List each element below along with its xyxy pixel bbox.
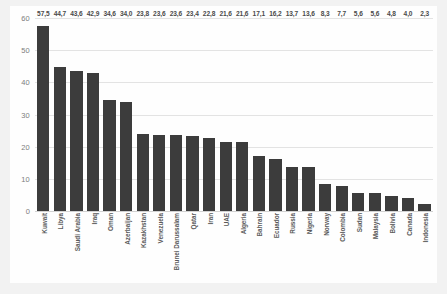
bar-group: 23,8 xyxy=(134,18,151,211)
bar-value-label: 23,6 xyxy=(153,10,165,17)
bar[interactable]: 42,9 xyxy=(87,73,99,211)
x-axis-tick: Russia xyxy=(284,213,301,281)
x-axis-tick: Nigeria xyxy=(300,213,317,281)
bar[interactable]: 21,6 xyxy=(236,142,248,211)
bar-group: 23,6 xyxy=(168,18,185,211)
bar[interactable]: 44,7 xyxy=(54,67,66,211)
bar-value-label: 34,0 xyxy=(120,10,132,17)
bar-group: 2,3 xyxy=(416,18,433,211)
x-axis-tick-label: Venezuela xyxy=(157,213,164,243)
bar-group: 34,0 xyxy=(118,18,135,211)
y-axis-tick-label: 0 xyxy=(26,207,30,216)
bar-value-label: 5,6 xyxy=(370,10,379,17)
bar[interactable]: 43,6 xyxy=(70,71,82,211)
y-axis-tick-label: 60 xyxy=(21,14,30,23)
bar-value-label: 23,6 xyxy=(170,10,182,17)
bar[interactable]: 13,6 xyxy=(302,167,314,211)
bar[interactable]: 7,7 xyxy=(336,186,348,211)
bar-group: 4,8 xyxy=(383,18,400,211)
bar[interactable]: 57,5 xyxy=(37,26,49,211)
bar[interactable]: 5,6 xyxy=(369,193,381,211)
x-axis-tick-label: Libya xyxy=(57,213,64,229)
x-axis-tick-label: Kuwait xyxy=(41,213,48,234)
bar-group: 7,7 xyxy=(333,18,350,211)
bar-group: 43,6 xyxy=(68,18,85,211)
x-axis-tick: Colombia xyxy=(333,213,350,281)
bar-group: 5,6 xyxy=(367,18,384,211)
x-axis-tick-label: Bahrain xyxy=(256,213,263,236)
bar[interactable]: 23,6 xyxy=(170,135,182,211)
bar[interactable]: 23,4 xyxy=(186,136,198,211)
x-axis-tick-label: Iran xyxy=(207,213,214,225)
x-axis-tick-label: Oman xyxy=(107,213,114,231)
bar-group: 4,0 xyxy=(400,18,417,211)
bar[interactable]: 34,6 xyxy=(103,100,115,211)
x-axis-tick: Kazakhstan xyxy=(134,213,151,281)
bar-value-label: 42,9 xyxy=(87,10,99,17)
bar-value-label: 22,8 xyxy=(203,10,215,17)
x-axis-tick: Oman xyxy=(101,213,118,281)
bar-value-label: 21,6 xyxy=(236,10,248,17)
bar-value-label: 13,7 xyxy=(286,10,298,17)
x-axis-tick-label: Norway xyxy=(323,213,330,236)
x-axis-tick: Kuwait xyxy=(35,213,52,281)
x-axis-tick: Libya xyxy=(52,213,69,281)
x-axis-tick: Venezuela xyxy=(151,213,168,281)
bar[interactable]: 16,2 xyxy=(269,159,281,211)
bar-group: 21,6 xyxy=(217,18,234,211)
y-axis-tick-label: 10 xyxy=(21,174,30,183)
bar-group: 13,6 xyxy=(300,18,317,211)
x-axis-tick: Indonesia xyxy=(416,213,433,281)
x-axis-tick: Sudan xyxy=(350,213,367,281)
bar[interactable]: 8,3 xyxy=(319,184,331,211)
bar[interactable]: 23,8 xyxy=(137,134,149,211)
x-axis-tick-label: Indonesia xyxy=(422,213,429,242)
bar[interactable]: 13,7 xyxy=(286,167,298,211)
bar-group: 16,2 xyxy=(267,18,284,211)
x-axis-tick: Iran xyxy=(201,213,218,281)
x-axis-tick: Malaysia xyxy=(367,213,384,281)
bar[interactable]: 17,1 xyxy=(253,156,265,211)
bar-group: 8,3 xyxy=(317,18,334,211)
y-axis-tick-label: 50 xyxy=(21,46,30,55)
bar-group: 17,1 xyxy=(251,18,268,211)
bar[interactable]: 4,8 xyxy=(385,196,397,211)
chart-plot-card: 0102030405060 57,544,743,642,934,634,023… xyxy=(10,6,437,283)
x-axis-tick: Bahrain xyxy=(251,213,268,281)
bar-group: 5,6 xyxy=(350,18,367,211)
bar[interactable]: 22,8 xyxy=(203,138,215,211)
bar-group: 44,7 xyxy=(52,18,69,211)
bar-value-label: 7,7 xyxy=(337,10,346,17)
y-axis-tick-label: 30 xyxy=(21,110,30,119)
bar-value-label: 8,3 xyxy=(321,10,330,17)
bar-value-label: 4,8 xyxy=(387,10,396,17)
y-axis: 0102030405060 xyxy=(10,18,34,211)
bar[interactable]: 4,0 xyxy=(402,198,414,211)
x-axis-tick-label: Nigeria xyxy=(306,213,313,234)
bar-group: 21,6 xyxy=(234,18,251,211)
x-axis-tick-label: Brunei Darussalam xyxy=(173,213,180,270)
bar-value-label: 34,6 xyxy=(103,10,115,17)
bar-value-label: 43,6 xyxy=(70,10,82,17)
x-axis-tick: Bolivia xyxy=(383,213,400,281)
bar[interactable]: 2,3 xyxy=(418,204,430,211)
bar[interactable]: 34,0 xyxy=(120,102,132,211)
x-axis-tick: Qatar xyxy=(184,213,201,281)
bar-group: 22,8 xyxy=(201,18,218,211)
bar[interactable]: 5,6 xyxy=(352,193,364,211)
x-axis-tick: Algeria xyxy=(234,213,251,281)
x-axis-tick-label: Sudan xyxy=(356,213,363,232)
bar-group: 23,6 xyxy=(151,18,168,211)
bar[interactable]: 23,6 xyxy=(153,135,165,211)
bar-group: 57,5 xyxy=(35,18,52,211)
bar-value-label: 23,4 xyxy=(186,10,198,17)
x-axis-tick-label: Azerbaijan xyxy=(124,213,131,245)
x-axis-tick: Saudi Arabia xyxy=(68,213,85,281)
x-axis-tick-label: Colombia xyxy=(339,213,346,242)
bar[interactable]: 21,6 xyxy=(220,142,232,211)
x-axis-tick: UAE xyxy=(217,213,234,281)
bar-value-label: 5,6 xyxy=(354,10,363,17)
y-axis-tick-label: 20 xyxy=(21,142,30,151)
bar-group: 13,7 xyxy=(284,18,301,211)
x-axis-tick-label: Iraq xyxy=(91,213,98,225)
